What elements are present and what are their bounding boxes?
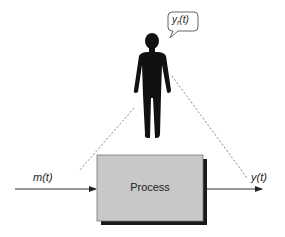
output-label: y(t)	[251, 171, 267, 183]
input-label: m(t)	[33, 171, 53, 183]
process-label: Process	[97, 181, 203, 193]
setpoint-suffix: (t)	[179, 14, 188, 25]
observer-setpoint-label: yr(t)	[172, 14, 189, 26]
person-silhouette-icon	[134, 33, 171, 138]
diagram-canvas	[0, 0, 285, 237]
